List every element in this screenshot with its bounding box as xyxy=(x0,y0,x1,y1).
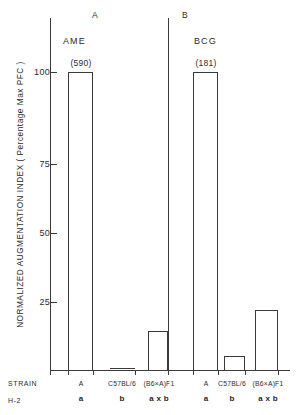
x-tick-4 xyxy=(168,370,169,375)
h2-label-panel-a-2: a x b xyxy=(134,394,184,403)
panel-a-name: AME xyxy=(63,36,86,46)
panel-b-axis-line xyxy=(168,18,169,370)
bar-value-panel-a-strain-a: (590) xyxy=(56,58,106,68)
panel-a-letter: A xyxy=(92,10,98,20)
x-tick-6 xyxy=(218,370,219,375)
h2-label-panel-a-0: a xyxy=(60,394,102,403)
panel-b-name: BCG xyxy=(194,36,217,46)
bar-panel-a-strain-axb xyxy=(148,331,168,370)
y-axis-line xyxy=(50,18,51,370)
y-tick-mark-50 xyxy=(51,233,57,234)
strain-label-panel-a-2: (B6×A)F1 xyxy=(134,380,184,387)
y-tick-label-75: 75 xyxy=(24,160,50,169)
y-tick-label-100: 100 xyxy=(24,68,50,77)
bar-panel-b-strain-b xyxy=(224,356,245,370)
panel-b-letter: B xyxy=(182,10,188,20)
bar-value-panel-b-strain-a: (181) xyxy=(181,58,231,68)
y-tick-mark-25 xyxy=(51,302,57,303)
x-tick-5 xyxy=(193,370,194,375)
row-label-strain: STRAIN xyxy=(8,380,37,387)
y-tick-mark-75 xyxy=(51,164,57,165)
x-tick-1 xyxy=(68,370,69,375)
x-axis-baseline xyxy=(50,370,290,371)
x-tick-8 xyxy=(278,370,279,375)
y-tick-mark-100 xyxy=(51,72,57,73)
x-tick-7 xyxy=(245,370,246,375)
strain-label-panel-b-2: (B6×A)F1 xyxy=(243,380,293,387)
y-tick-label-50: 50 xyxy=(24,229,50,238)
x-tick-0 xyxy=(50,370,51,375)
x-tick-2 xyxy=(93,370,94,375)
bar-panel-a-strain-a xyxy=(68,72,93,370)
figure-canvas: NORMALIZED AUGMENTATION INDEX ( Percenta… xyxy=(0,0,298,415)
y-tick-label-25: 25 xyxy=(24,298,50,307)
h2-label-panel-b-2: a x b xyxy=(243,394,293,403)
strain-label-panel-a-0: A xyxy=(60,380,102,387)
bar-panel-a-strain-b xyxy=(110,368,135,370)
row-label-h2: H-2 xyxy=(8,397,21,404)
x-tick-3 xyxy=(135,370,136,375)
bar-panel-b-strain-axb xyxy=(255,310,278,370)
bar-panel-b-strain-a xyxy=(193,72,218,370)
